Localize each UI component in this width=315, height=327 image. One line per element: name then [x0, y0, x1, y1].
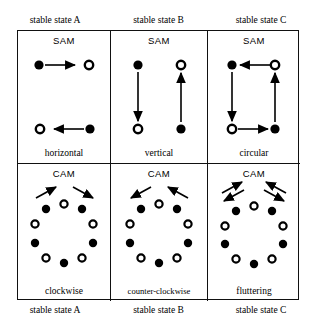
- panel-sam-circular: SAM circula: [208, 31, 300, 164]
- top-caption-c: stable state C: [207, 13, 315, 27]
- panel-graphic-cam-counter-clockwise: [111, 164, 207, 301]
- stable-states-figure: stable state A stable state B stable sta…: [0, 0, 315, 327]
- states-grid: SAM horizontal S: [17, 30, 299, 300]
- panel-graphic-cam-clockwise: [18, 164, 110, 301]
- panel-graphic-sam-horizontal: [18, 31, 110, 163]
- panel-label-vertical: vertical: [111, 148, 207, 158]
- panel-label-circular: circular: [208, 148, 300, 158]
- top-caption-row: stable state A stable state B stable sta…: [0, 13, 315, 27]
- panel-label-counter-clockwise: counter-clockwise: [111, 286, 207, 296]
- panel-label-clockwise: clockwise: [18, 286, 110, 296]
- panel-cam-counter-clockwise: CAM: [111, 164, 208, 301]
- panel-graphic-cam-fluttering: [208, 164, 300, 301]
- bottom-caption-c: stable state C: [207, 303, 315, 317]
- cam-ring-a: [31, 200, 97, 267]
- bottom-caption-a: stable state A: [0, 303, 110, 317]
- panel-cam-fluttering: CAM: [208, 164, 300, 301]
- bottom-caption-b: stable state B: [110, 303, 207, 317]
- panel-cam-clockwise: CAM: [18, 164, 111, 301]
- bottom-caption-row: stable state A stable state B stable sta…: [0, 303, 315, 317]
- panel-graphic-sam-circular: [208, 31, 300, 163]
- panel-sam-vertical: SAM vertical: [111, 31, 208, 164]
- cam-ring-b: [126, 200, 192, 267]
- panel-label-horizontal: horizontal: [18, 148, 110, 158]
- cam-ring-c: [221, 202, 287, 268]
- top-caption-a: stable state A: [0, 13, 110, 27]
- top-caption-b: stable state B: [110, 13, 207, 27]
- panel-sam-horizontal: SAM horizontal: [18, 31, 111, 164]
- panel-graphic-sam-vertical: [111, 31, 207, 163]
- panel-label-fluttering: fluttering: [208, 286, 300, 296]
